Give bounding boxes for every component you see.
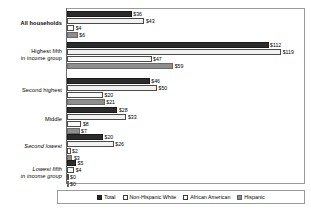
bar-african-american xyxy=(67,121,81,127)
bar-value-label: $21 xyxy=(106,99,115,106)
category-label-line1: Middle xyxy=(45,116,62,122)
bar-value-label: $36 xyxy=(133,11,142,18)
bar-african-american xyxy=(67,56,152,62)
bar-value-label: $47 xyxy=(153,56,162,63)
bar-non-hispanic-white xyxy=(67,49,281,55)
legend-item: Non-Hispanic White xyxy=(123,194,177,201)
bar-african-american xyxy=(67,148,71,154)
legend-item: Total xyxy=(97,194,115,201)
chart-legend: TotalNon-Hispanic WhiteAfrican AmericanH… xyxy=(57,190,305,204)
bar-total xyxy=(67,11,132,17)
bar-total xyxy=(67,78,150,84)
bar-non-hispanic-white xyxy=(67,141,114,147)
category-label-line2: in income group xyxy=(0,173,62,180)
bar-total xyxy=(67,160,76,166)
bar-non-hispanic-white xyxy=(67,18,144,24)
legend-label: Total xyxy=(104,194,115,201)
bar-hispanic xyxy=(67,63,173,69)
bar-hispanic xyxy=(67,99,105,105)
category-label: Lowest fifthin income group xyxy=(0,166,62,180)
bar-value-label: $50 xyxy=(159,85,168,92)
legend-item: Hispanic xyxy=(237,194,264,201)
bar-non-hispanic-white xyxy=(67,114,126,120)
bar-african-american xyxy=(67,25,74,31)
bar-value-label: $20 xyxy=(105,92,114,99)
bar-value-label: $112 xyxy=(270,42,281,49)
bar-value-label: $28 xyxy=(119,107,128,114)
bar-chart: All households$36$43$4$6Highest fifthin … xyxy=(0,0,311,212)
bar-value-label: $119 xyxy=(283,49,294,56)
legend-label: Non-Hispanic White xyxy=(130,194,177,201)
bar-value-label: $43 xyxy=(146,18,155,25)
legend-swatch-icon xyxy=(123,195,128,200)
legend-item: African American xyxy=(183,194,230,201)
category-label-line1: Highest fifth xyxy=(31,48,62,54)
legend-swatch-icon xyxy=(97,195,102,200)
bar-value-label: $20 xyxy=(105,134,114,141)
category-label: All households xyxy=(0,20,62,27)
bar-value-label: $4 xyxy=(76,25,82,32)
bar-non-hispanic-white xyxy=(67,167,74,173)
bar-value-label: $59 xyxy=(175,63,184,70)
legend-label: African American xyxy=(190,194,230,201)
category-label: Second highest xyxy=(0,87,62,94)
bar-value-label: $0 xyxy=(70,181,76,188)
bar-african-american xyxy=(67,92,103,98)
bar-hispanic xyxy=(67,32,78,38)
category-label-line1: Second lowest xyxy=(24,143,62,149)
bar-value-label: $8 xyxy=(83,121,89,128)
bar-value-label: $46 xyxy=(151,78,160,85)
bar-non-hispanic-white xyxy=(67,85,157,91)
bar-value-label: $2 xyxy=(72,148,78,155)
legend-swatch-icon xyxy=(183,195,188,200)
category-label-line1: Lowest fifth xyxy=(33,166,63,172)
bar-value-label: $6 xyxy=(79,32,85,39)
bar-value-label: $5 xyxy=(78,160,84,167)
bar-hispanic xyxy=(67,181,69,187)
bar-african-american xyxy=(67,174,69,180)
bar-value-label: $0 xyxy=(70,174,76,181)
bar-value-label: $4 xyxy=(76,167,82,174)
bar-total xyxy=(67,107,117,113)
category-label-line2: in income group xyxy=(0,55,62,62)
category-label: Second lowest xyxy=(0,143,62,150)
bar-value-label: $26 xyxy=(115,141,124,148)
category-label-line1: Second highest xyxy=(22,87,62,93)
bar-total xyxy=(67,134,103,140)
bar-total xyxy=(67,42,269,48)
category-label: Highest fifthin income group xyxy=(0,48,62,62)
bar-value-label: $33 xyxy=(128,114,137,121)
category-label: Middle xyxy=(0,116,62,123)
legend-label: Hispanic xyxy=(244,194,264,201)
category-label-line1: All households xyxy=(21,20,63,26)
legend-swatch-icon xyxy=(237,195,242,200)
